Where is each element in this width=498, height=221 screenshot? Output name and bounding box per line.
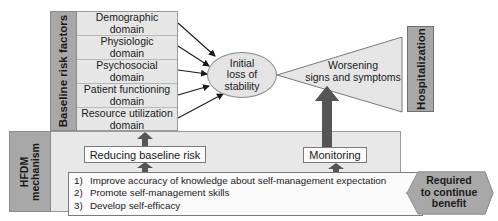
required-to-continue-benefit: Required to continue benefit bbox=[406, 174, 492, 211]
